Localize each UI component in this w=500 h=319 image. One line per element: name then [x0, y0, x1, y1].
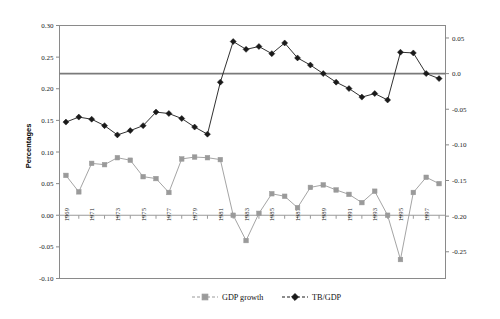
y-axis-right-tick-label: -0.20	[452, 213, 467, 221]
data-point-marker	[270, 191, 275, 196]
legend-marker-square	[202, 294, 208, 300]
y-axis-left-tick-label: 0.00	[41, 212, 54, 220]
y-axis-left-tick-label: 0.25	[41, 54, 54, 62]
data-point-marker	[385, 213, 390, 218]
x-axis-tick-label: 1997	[423, 207, 430, 221]
y-axis-left-tick-label: 0.05	[41, 180, 54, 188]
data-point-marker	[218, 157, 223, 162]
x-axis-tick-label: 1975	[140, 207, 147, 221]
data-point-marker	[334, 188, 339, 193]
x-axis-tick-label: 1969	[63, 207, 70, 221]
data-point-marker	[257, 211, 262, 216]
data-point-marker	[347, 192, 352, 197]
data-point-marker	[308, 185, 313, 190]
y-axis-right-tick-label: -0.10	[452, 141, 467, 149]
x-axis-tick-label: 1977	[165, 207, 172, 221]
data-point-marker	[102, 162, 107, 167]
data-point-marker	[205, 155, 210, 160]
data-point-marker	[141, 174, 146, 179]
y-axis-right-tick-label: -0.15	[452, 177, 467, 185]
chart-figure: 0.300.250.200.150.100.050.00-0.05-0.10 0…	[0, 0, 500, 319]
x-axis-tick-label: 1985	[268, 207, 275, 221]
x-axis-tick-label: 1991	[346, 208, 353, 221]
data-point-marker	[64, 173, 69, 178]
data-point-marker	[154, 176, 159, 181]
data-point-marker	[244, 238, 249, 243]
data-point-marker	[295, 205, 300, 210]
data-point-marker	[179, 157, 184, 162]
x-axis-tick-label: 1979	[191, 207, 198, 221]
y-axis-right-tick-label: -0.05	[452, 106, 467, 114]
legend-label: GDP growth	[222, 293, 263, 302]
y-axis-left-tick-label: 0.15	[41, 117, 54, 125]
x-axis-tick-label: 1993	[371, 207, 378, 221]
y-axis-left-tick-label: 0.30	[41, 22, 54, 30]
data-point-marker	[360, 200, 365, 205]
data-point-marker	[437, 181, 442, 186]
data-point-marker	[398, 257, 403, 262]
data-point-marker	[411, 190, 416, 195]
data-point-marker	[424, 175, 429, 180]
chart-background	[0, 0, 500, 319]
x-axis-tick-label: 1995	[397, 207, 404, 221]
legend-label: TB/GDP	[312, 293, 342, 302]
data-point-marker	[115, 155, 120, 160]
y-axis-right-tick-label: 0.05	[452, 35, 465, 43]
x-axis-tick-label: 1973	[114, 207, 121, 221]
chart-canvas: 0.300.250.200.150.100.050.00-0.05-0.10 0…	[0, 0, 500, 319]
x-axis-tick-label: 1971	[88, 208, 95, 221]
data-point-marker	[128, 158, 133, 163]
y-axis-left-tick-label: 0.10	[41, 149, 54, 157]
x-axis-tick-label: 1989	[320, 207, 327, 221]
y-axis-left-tick-label: 0.20	[41, 85, 54, 93]
data-point-marker	[167, 190, 172, 195]
data-point-marker	[321, 183, 326, 188]
data-point-marker	[372, 189, 377, 194]
y-axis-left-tick-label: -0.10	[39, 275, 54, 283]
data-point-marker	[89, 161, 94, 166]
data-point-marker	[231, 213, 236, 218]
data-point-marker	[282, 194, 287, 199]
x-axis-tick-label: 1981	[217, 208, 224, 221]
data-point-marker	[77, 190, 82, 195]
data-point-marker	[192, 155, 197, 160]
x-axis-tick-label: 1983	[243, 207, 250, 221]
y-axis-right-tick-label: 0.0	[452, 70, 461, 78]
y-axis-left-tick-label: -0.05	[39, 243, 54, 251]
y-axis-label: Percentages	[24, 124, 33, 169]
y-axis-right-tick-label: -0.25	[452, 248, 467, 256]
